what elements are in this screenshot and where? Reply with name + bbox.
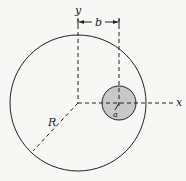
arrowhead-left-icon xyxy=(79,20,84,24)
diagram-canvas: y x b R a xyxy=(0,0,186,181)
small-radius-label: a xyxy=(113,110,118,119)
y-axis-label: y xyxy=(74,4,82,17)
big-radius-label: R xyxy=(47,116,56,129)
arrowhead-right-icon xyxy=(113,20,118,24)
x-axis-label: x xyxy=(176,96,183,109)
offset-label: b xyxy=(95,16,102,29)
